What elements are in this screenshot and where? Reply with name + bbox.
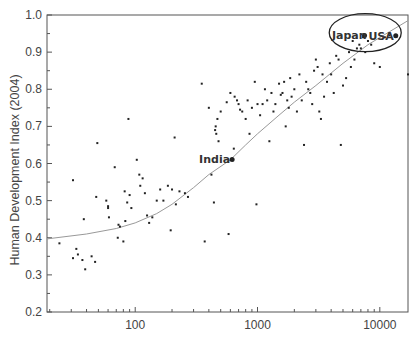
x-tick-label: 100 — [125, 318, 145, 332]
y-tick-label: 0.3 — [25, 268, 42, 282]
data-point — [342, 85, 344, 87]
data-point — [335, 55, 337, 57]
usa-label: USA — [368, 30, 394, 43]
data-point — [370, 44, 372, 46]
data-point — [81, 259, 83, 261]
data-point — [249, 133, 251, 135]
data-point — [229, 92, 231, 94]
data-point — [130, 207, 132, 209]
data-point — [296, 111, 298, 113]
data-point — [305, 81, 307, 83]
data-point — [72, 179, 74, 181]
data-point — [333, 92, 335, 94]
data-point — [122, 240, 124, 242]
data-point — [233, 148, 235, 150]
data-point — [322, 73, 324, 75]
data-point — [318, 111, 320, 113]
data-point — [201, 83, 203, 85]
data-point — [358, 44, 360, 46]
data-point — [247, 99, 249, 101]
hdi-scatter-chart: 0.20.30.40.50.60.70.80.91.0 100100010000… — [0, 0, 411, 338]
data-point — [146, 214, 148, 216]
data-point — [148, 222, 150, 224]
data-point — [379, 66, 381, 68]
data-point — [307, 88, 309, 90]
data-point — [139, 185, 141, 187]
data-point — [129, 194, 131, 196]
data-point — [107, 205, 109, 207]
data-point — [96, 142, 98, 144]
data-point — [268, 140, 270, 142]
y-tick-label: 0.2 — [25, 305, 42, 319]
data-point — [338, 59, 340, 61]
data-point — [124, 190, 126, 192]
y-tick-label: 0.9 — [25, 45, 42, 59]
data-points — [58, 34, 409, 270]
data-point — [226, 101, 228, 103]
data-point — [245, 118, 247, 120]
fit-curve-line — [47, 21, 408, 239]
data-point — [83, 218, 85, 220]
data-point — [315, 59, 317, 61]
data-point — [330, 73, 332, 75]
data-point — [286, 99, 288, 101]
data-point — [348, 51, 350, 53]
data-point — [171, 188, 173, 190]
data-point — [301, 99, 303, 101]
data-point — [170, 229, 172, 231]
data-point — [262, 103, 264, 105]
data-point — [274, 103, 276, 105]
data-point — [309, 92, 311, 94]
data-point — [241, 111, 243, 113]
data-point — [329, 62, 331, 64]
data-point — [159, 188, 161, 190]
data-point — [138, 174, 140, 176]
x-tick-label: 10000 — [363, 318, 397, 332]
data-point — [144, 192, 146, 194]
data-point — [107, 207, 109, 209]
data-point — [345, 77, 347, 79]
data-point — [156, 200, 158, 202]
data-point — [215, 133, 217, 135]
data-point — [353, 59, 355, 61]
data-point — [216, 118, 218, 120]
data-point — [236, 99, 238, 101]
data-point — [280, 94, 282, 96]
data-point — [283, 81, 285, 83]
data-point — [124, 220, 126, 222]
data-point — [317, 66, 319, 68]
data-point — [213, 201, 215, 203]
data-point — [257, 103, 259, 105]
japan-label: Japan — [331, 29, 367, 42]
data-point — [340, 144, 342, 146]
data-point — [167, 185, 169, 187]
data-point — [215, 125, 217, 127]
data-point — [178, 190, 180, 192]
data-point — [126, 201, 128, 203]
data-point — [136, 159, 138, 161]
data-point — [311, 103, 313, 105]
data-point — [259, 114, 261, 116]
data-point — [360, 47, 362, 49]
data-point — [350, 66, 352, 68]
data-point — [278, 83, 280, 85]
data-point — [291, 96, 293, 98]
data-point — [320, 118, 322, 120]
data-point — [288, 107, 290, 109]
data-point — [254, 81, 256, 83]
usa-marker — [393, 33, 398, 38]
data-point — [108, 216, 110, 218]
data-point — [105, 200, 107, 202]
data-point — [77, 253, 79, 255]
data-point — [187, 196, 189, 198]
data-point — [75, 248, 77, 250]
data-point — [208, 107, 210, 109]
data-point — [373, 62, 375, 64]
data-point — [264, 88, 266, 90]
data-point — [298, 73, 300, 75]
data-point — [266, 99, 268, 101]
data-point — [91, 255, 93, 257]
data-point — [210, 174, 212, 176]
y-tick-label: 0.4 — [25, 231, 42, 245]
data-point — [94, 261, 96, 263]
